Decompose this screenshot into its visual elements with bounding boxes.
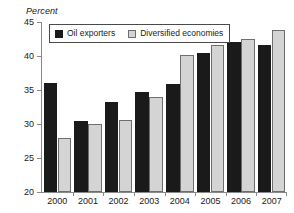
bar-2002-series-1 [119,120,133,192]
x-tick-label-2004: 2004 [170,196,190,206]
bar-2002-series-0 [105,102,119,192]
legend-label: Diversified economies [140,29,223,38]
bar-2003-series-0 [135,92,149,192]
x-tick-mark [134,192,135,196]
bar-series-container [42,22,286,192]
bar-2005-series-1 [211,45,225,192]
x-tick-label-2001: 2001 [78,196,98,206]
y-tick-label: 20 [24,187,34,197]
legend-label: Oil exporters [67,29,115,38]
x-tick-mark [103,192,104,196]
legend-item-diversified-economies: Diversified economies [128,29,223,38]
legend-swatch-icon [128,30,136,38]
y-tick-label: 45 [24,17,34,27]
bar-2000-series-0 [44,83,58,192]
y-tick-label: 35 [24,85,34,95]
y-tick-mark [37,124,41,125]
bar-2007-series-1 [272,30,286,192]
x-tick-mark [226,192,227,196]
legend-item-oil-exporters: Oil exporters [55,29,115,38]
x-tick-mark [73,192,74,196]
bar-2001-series-1 [88,124,102,192]
y-tick-mark [37,192,41,193]
bar-2001-series-0 [74,121,88,192]
y-axis-title: Percent [26,6,58,16]
bar-2006-series-0 [227,42,241,192]
y-tick-mark [37,158,41,159]
chart-legend: Oil exporters Diversified economies [49,24,230,43]
x-tick-mark [256,192,257,196]
y-tick-mark [37,56,41,57]
bar-2004-series-1 [180,55,194,192]
x-tick-label-2007: 2007 [262,196,282,206]
y-tick-label: 30 [24,119,34,129]
bar-2007-series-0 [258,45,272,192]
bar-2006-series-1 [241,39,255,192]
bar-2003-series-1 [149,97,163,192]
y-tick-mark [37,22,41,23]
bar-2005-series-0 [197,53,211,192]
x-tick-label-2006: 2006 [231,196,251,206]
x-tick-label-2000: 2000 [47,196,67,206]
y-tick-mark [37,90,41,91]
x-tick-label-2005: 2005 [200,196,220,206]
x-axis-line [41,192,286,193]
plot-area: 202530354045 200020012002200320042005200… [41,22,286,192]
x-tick-label-2003: 2003 [139,196,159,206]
bar-2000-series-1 [58,138,72,192]
x-tick-mark [286,192,287,196]
x-tick-label-2002: 2002 [109,196,129,206]
y-tick-label: 25 [24,153,34,163]
x-tick-mark [195,192,196,196]
x-tick-mark [165,192,166,196]
y-tick-label: 40 [24,51,34,61]
bar-2004-series-0 [166,84,180,192]
bar-chart: Percent 202530354045 2000200120022003200… [0,0,294,213]
legend-swatch-icon [55,30,63,38]
